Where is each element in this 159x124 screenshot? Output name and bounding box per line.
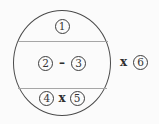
circled-number-1-digit: 1 [59,21,66,32]
circled-number-4: 4 [39,91,54,106]
circled-number-4-digit: 4 [44,93,51,104]
circled-number-3-digit: 3 [75,58,82,69]
outside-multiplier: x 6 [120,55,158,70]
circled-number-6: 6 [133,55,148,70]
circled-number-3: 3 [71,56,86,71]
circled-number-6-digit: 6 [137,57,144,68]
multiply-operator-inner: x [58,92,65,105]
circled-number-2-digit: 2 [42,58,49,69]
circle-middle-section: 2 – 3 [13,56,111,71]
lower-divider-line [18,88,107,89]
circle-top-section: 1 [13,19,111,34]
circled-number-1: 1 [55,19,70,34]
upper-divider-line [18,41,108,42]
circled-number-2: 2 [38,56,53,71]
diagram-canvas: 1 2 – 3 4 x 5 x 6 [0,0,159,124]
circled-number-5: 5 [70,91,85,106]
minus-operator: – [59,57,65,70]
circled-number-5-digit: 5 [74,93,81,104]
circle-bottom-section: 4 x 5 [13,91,111,106]
multiply-operator-outer: x [120,56,127,69]
